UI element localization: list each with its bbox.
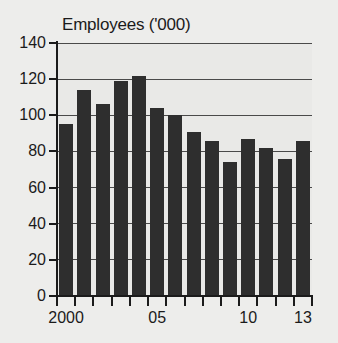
bar: [259, 148, 273, 296]
y-axis-tick-label: 120: [19, 71, 46, 87]
x-axis-tick: [184, 297, 186, 306]
y-axis-tick-label: 140: [19, 35, 46, 51]
x-axis-tick: [311, 297, 313, 306]
x-axis-tick-label: 05: [148, 310, 166, 326]
y-axis-tick-label: 60: [28, 180, 46, 196]
x-axis-tick: [202, 297, 204, 306]
x-axis-tick-label: 10: [239, 310, 257, 326]
bar: [96, 104, 110, 296]
x-axis-tick: [275, 297, 277, 306]
y-axis-tick-label: 80: [28, 143, 46, 159]
bar: [223, 162, 237, 296]
y-axis-tick-label: 100: [19, 107, 46, 123]
y-axis-tick-label: 40: [28, 216, 46, 232]
bar: [205, 141, 219, 296]
y-axis-tick-label: 0: [37, 288, 46, 304]
x-axis-tick: [111, 297, 113, 306]
y-axis-tick-label: 20: [28, 252, 46, 268]
bar: [278, 159, 292, 296]
x-axis-tick-label: 2000: [48, 310, 84, 326]
x-axis-tick: [220, 297, 222, 306]
x-axis-tick: [92, 297, 94, 306]
bar: [59, 124, 73, 296]
x-axis-tick: [147, 297, 149, 306]
gridline: [57, 43, 312, 44]
x-axis-tick: [129, 297, 131, 306]
bar: [296, 141, 310, 296]
x-axis-tick: [256, 297, 258, 306]
x-axis-tick-label: 13: [294, 310, 312, 326]
bar: [77, 90, 91, 296]
x-axis-tick: [238, 297, 240, 306]
x-axis-tick: [165, 297, 167, 306]
y-axis-line: [56, 41, 58, 298]
x-axis-tick: [56, 297, 58, 306]
bar: [114, 81, 128, 296]
employees-bar-chart: Employees ('000) 020406080100120140 2000…: [0, 0, 338, 343]
x-axis-tick: [74, 297, 76, 306]
gridline: [57, 79, 312, 80]
x-axis-tick: [293, 297, 295, 306]
bar: [132, 76, 146, 296]
bar: [241, 139, 255, 296]
bar: [187, 132, 201, 296]
bar: [150, 108, 164, 296]
bar: [168, 115, 182, 296]
chart-title: Employees ('000): [62, 15, 191, 35]
